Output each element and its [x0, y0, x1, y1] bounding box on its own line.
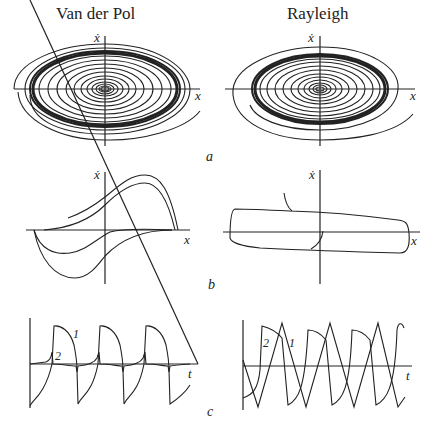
figure-canvas: [0, 0, 434, 430]
rayleigh-curve-1-label: 1: [289, 336, 295, 351]
vdp-phase-portrait: [14, 36, 200, 146]
vdp-relaxation-portrait: [26, 172, 190, 284]
vdp-b-xdot-label: ẋ: [94, 167, 100, 183]
vdp-curve-1-label: 1: [73, 327, 79, 342]
panel-label-b: b: [208, 277, 215, 293]
rayleigh-a-xdot-label: ẋ: [308, 30, 314, 46]
vdp-b-x-label: x: [184, 232, 190, 248]
vdp-curve-2-label: 2: [55, 349, 61, 364]
panel-label-a: a: [206, 149, 213, 165]
vdp-c-t-label: t: [188, 366, 192, 382]
rayleigh-b-x-label: x: [411, 233, 417, 249]
panel-label-c: c: [207, 404, 213, 420]
rayleigh-c-t-label: t: [406, 368, 410, 384]
rayleigh-relaxation-portrait: [223, 170, 420, 284]
rayleigh-a-x-label: x: [410, 88, 416, 104]
rayleigh-curve-2-label: 2: [263, 336, 269, 351]
vdp-a-x-label: x: [195, 88, 201, 104]
rayleigh-time-series: [243, 320, 412, 410]
rayleigh-phase-portrait: [225, 36, 415, 146]
vdp-a-xdot-label: ẋ: [94, 30, 100, 46]
rayleigh-b-xdot-label: ẋ: [309, 167, 315, 183]
